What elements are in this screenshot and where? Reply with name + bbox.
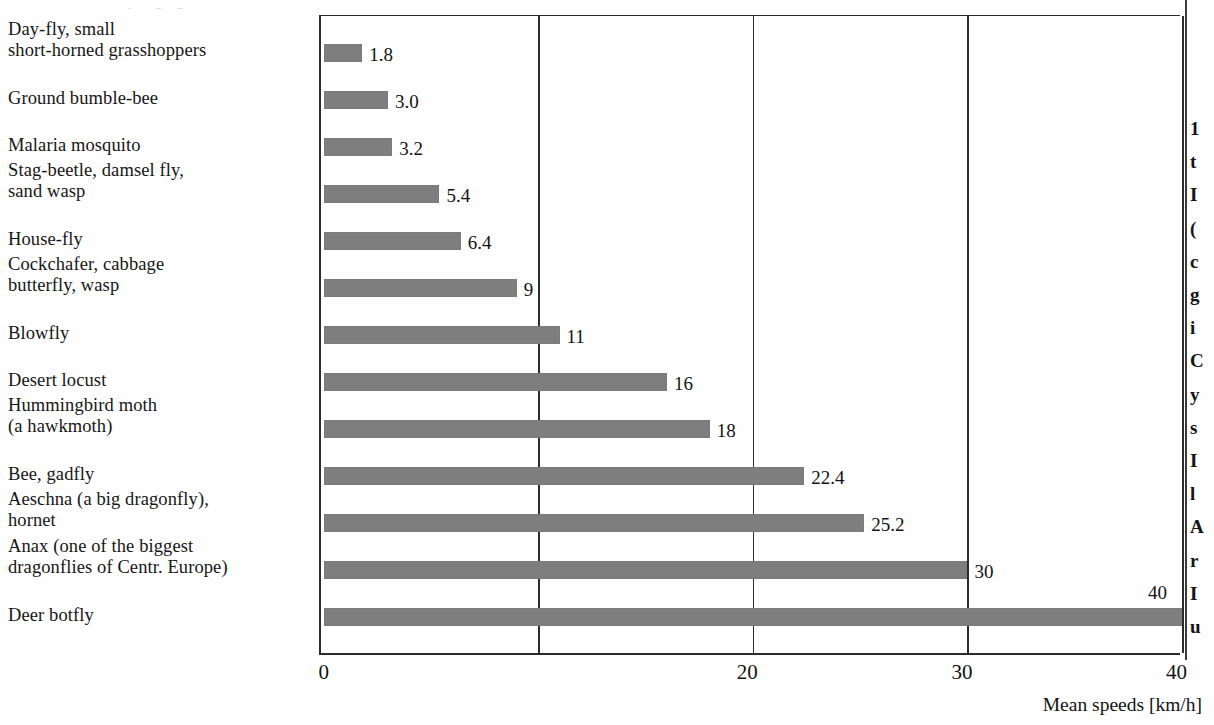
chart-plot-area: 1.83.03.25.46.4911161822.425.23040 [319,15,1180,655]
category-label-line: Hummingbird moth [8,395,313,416]
category-label-column: Day-fly, smallshort-horned grasshoppersG… [0,0,316,725]
category-label-line: Ground bumble-bee [8,88,313,109]
gridline-30 [967,16,969,653]
cropped-text-line: ( [1190,212,1214,245]
scanned-page: Mean flying speeds of insects Day-fly, s… [0,0,1214,725]
cropped-text-line: y [1190,378,1214,411]
category-label-line: short-horned grasshoppers [8,40,313,61]
x-tick-label-20: 20 [737,660,758,685]
bar [324,44,363,62]
category-label-line: Deer botfly [8,605,313,626]
bar [324,373,667,391]
category-label-line: Desert locust [8,370,313,391]
bar-value-label: 5.4 [446,186,470,205]
gridline-20 [753,16,755,653]
cropped-text-line: u [1190,610,1214,643]
category-label-line: Blowfly [8,323,313,344]
cropped-text-line: A [1190,510,1214,543]
cropped-text-line: s [1190,411,1214,444]
bar [324,185,440,203]
bar-value-label: 11 [567,327,585,346]
category-label-line: Cockchafer, cabbage [8,254,313,275]
bar [324,467,805,485]
cropped-text-line: l [1190,477,1214,510]
bar [324,138,393,156]
bar-value-label: 30 [974,562,993,581]
bar [324,608,1183,626]
bar [324,561,968,579]
cropped-text-line: I [1190,444,1214,477]
category-label-line: (a hawkmoth) [8,416,313,437]
category-label-line: Malaria mosquito [8,135,313,156]
category-label: Bee, gadfly [8,464,313,485]
cropped-text-line: I [1190,178,1214,211]
category-label-line: Anax (one of the biggest [8,536,313,557]
cropped-text-line: g [1190,278,1214,311]
bar-value-label: 40 [1148,583,1167,602]
category-label-line: dragonflies of Centr. Europe) [8,557,313,578]
bar [324,279,517,297]
bar [324,514,865,532]
cropped-text-line: 1 [1190,112,1214,145]
category-label-line: Stag-beetle, damsel fly, [8,160,313,181]
cropped-text-line: t [1190,145,1214,178]
category-label-line: butterfly, wasp [8,275,313,296]
bar-value-label: 3.0 [395,92,419,111]
bar-value-label: 6.4 [468,233,492,252]
category-label: Aeschna (a big dragonfly),hornet [8,489,313,530]
bar-value-label: 18 [717,421,736,440]
x-tick-label-40: 40 [1166,660,1187,685]
cropped-text-line: i [1190,311,1214,344]
category-label: Hummingbird moth(a hawkmoth) [8,395,313,436]
x-tick-label-30: 30 [951,660,972,685]
cropped-body-text-column: 1tI(cgiCysIlArIus [1190,112,1214,657]
category-label: Blowfly [8,323,313,344]
category-label-line: Aeschna (a big dragonfly), [8,489,313,510]
category-label: Anax (one of the biggestdragonflies of C… [8,536,313,577]
bar-value-label: 16 [674,374,693,393]
cropped-text-line: I [1190,577,1214,610]
category-label-line: sand wasp [8,181,313,202]
gridline-40 [1182,16,1184,653]
category-label: Desert locust [8,370,313,391]
category-label: Ground bumble-bee [8,88,313,109]
bar-value-label: 25.2 [871,515,904,534]
category-label: Malaria mosquito [8,135,313,156]
bar-value-label: 22.4 [811,468,844,487]
category-label-line: Day-fly, small [8,19,313,40]
cropped-text-line: s [1190,643,1214,657]
bar-value-label: 3.2 [399,139,423,158]
category-label-line: hornet [8,510,313,531]
category-label: Cockchafer, cabbagebutterfly, wasp [8,254,313,295]
cropped-text-line: r [1190,544,1214,577]
bar-value-label: 9 [524,280,534,299]
bar [324,326,560,344]
column-separator-rule [1185,0,1187,660]
x-axis-title: Mean speeds [km/h] [1043,694,1202,716]
category-label: Deer botfly [8,605,313,626]
category-label: House-fly [8,229,313,250]
category-label: Stag-beetle, damsel fly,sand wasp [8,160,313,201]
category-label: Day-fly, smallshort-horned grasshoppers [8,19,313,60]
bar-value-label: 1.8 [369,45,393,64]
x-tick-label-0: 0 [319,660,330,685]
bar [324,420,710,438]
bar [324,232,461,250]
bar [324,91,388,109]
cropped-text-line: c [1190,245,1214,278]
category-label-line: Bee, gadfly [8,464,313,485]
cropped-text-line: C [1190,344,1214,377]
category-label-line: House-fly [8,229,313,250]
